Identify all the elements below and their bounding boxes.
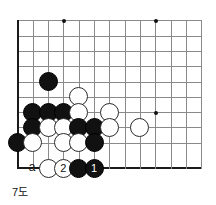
- star-point: [154, 19, 158, 23]
- move-stone-1[interactable]: 1: [85, 159, 104, 178]
- grid-line-vertical: [109, 20, 110, 169]
- grid-line-vertical: [186, 20, 187, 169]
- star-point: [154, 111, 158, 115]
- go-board-diagram: 21 a 7도: [0, 0, 216, 205]
- grid-line-vertical: [171, 20, 172, 169]
- grid-line-vertical: [140, 20, 141, 169]
- grid-line-vertical: [201, 20, 202, 169]
- grid-line-vertical: [155, 20, 156, 169]
- grid-line-vertical: [125, 20, 126, 169]
- diagram-caption: 7도: [12, 183, 28, 199]
- move-number: 2: [60, 162, 66, 173]
- star-point: [62, 19, 66, 23]
- stone-white[interactable]: [23, 133, 42, 152]
- stone-white[interactable]: [130, 118, 149, 137]
- stone-white[interactable]: [100, 118, 119, 137]
- stone-black[interactable]: [85, 133, 104, 152]
- point-label-a[interactable]: a: [29, 160, 36, 174]
- grid-line-vertical: [48, 20, 49, 169]
- move-number: 1: [91, 162, 97, 173]
- stone-black[interactable]: [39, 72, 58, 91]
